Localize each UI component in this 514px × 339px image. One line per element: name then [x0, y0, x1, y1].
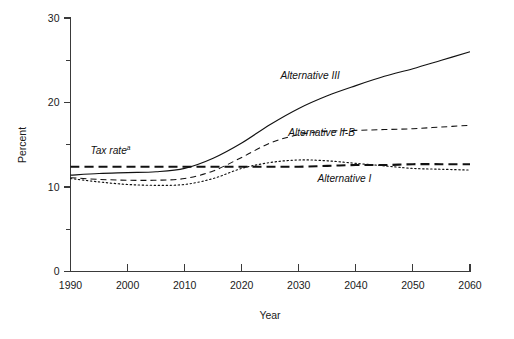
x-tick-label: 2050 [401, 279, 425, 291]
series-line-alternative-iii [71, 52, 471, 175]
x-tick-label: 2020 [230, 279, 254, 291]
series-label-tax-rate: Tax ratea [90, 144, 130, 156]
x-axis-title: Year [259, 309, 281, 321]
x-tick-label: 2000 [116, 279, 140, 291]
y-axis-tick-labels: 0102030 [48, 12, 60, 278]
series-label-alternative-i: Alternative I [317, 173, 372, 184]
data-series-group [71, 52, 471, 186]
x-tick-label: 2010 [173, 279, 197, 291]
y-tick-label: 0 [54, 265, 60, 277]
x-tick-label: 1990 [59, 279, 83, 291]
chart-container: 0102030 19902000201020202030204020502060… [0, 0, 514, 339]
series-label-alternative-ii-b: Alternative II-B [287, 127, 355, 138]
series-line-tax-rate [71, 164, 471, 167]
series-label-alternative-iii: Alternative III [279, 70, 340, 81]
y-tick-label: 30 [48, 12, 60, 24]
x-axis-ticks [71, 264, 471, 272]
y-tick-label: 10 [48, 181, 60, 193]
y-axis-title: Percent [16, 127, 28, 163]
x-tick-label: 2030 [287, 279, 311, 291]
x-axis-tick-labels: 19902000201020202030204020502060 [59, 279, 482, 291]
y-axis-ticks [64, 18, 71, 272]
x-tick-label: 2060 [458, 279, 482, 291]
y-tick-label: 20 [48, 96, 60, 108]
x-tick-label: 2040 [344, 279, 368, 291]
line-chart: 0102030 19902000201020202030204020502060… [0, 0, 514, 339]
